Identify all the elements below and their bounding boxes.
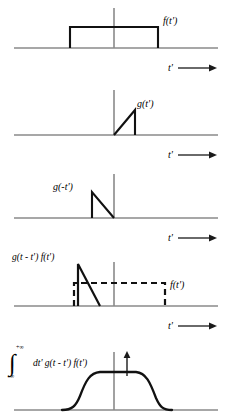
integral-upper-limit: +∞ (16, 344, 24, 350)
panel-1-axis-label: t' (168, 62, 174, 73)
panel-4-overlay-label: f(t') (170, 279, 185, 291)
panel-5-signal-label: dt' g(t - t') f(t') (33, 358, 87, 369)
panel-4-axis-label: t' (168, 320, 174, 331)
integral-lower-limit: -∞ (8, 373, 14, 379)
panel-3-axis-label: t' (168, 232, 174, 243)
panel-4-signal-label: g(t - t') f(t') (12, 252, 54, 263)
figure-background (0, 0, 232, 418)
panel-2-signal-label: g(t') (137, 98, 154, 110)
convolution-figure: f(t') t' g(t') t' g(-t') t' (0, 0, 232, 418)
panel-1-signal-label: f(t') (163, 15, 178, 27)
panel-3-signal-label: g(-t') (53, 181, 74, 193)
panel-2-axis-label: t' (168, 149, 174, 160)
